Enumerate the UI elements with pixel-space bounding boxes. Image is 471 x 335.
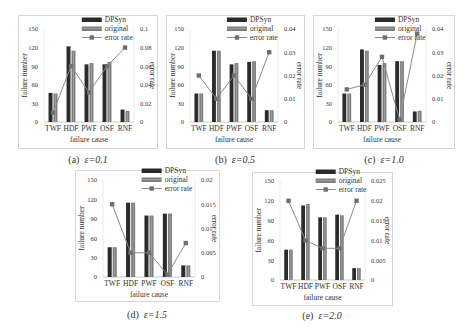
y2-tick-label: 0.025 <box>371 177 386 184</box>
legend-label: DPSyn <box>339 167 361 176</box>
legend-swatch-error-marker <box>324 187 328 191</box>
y-tick-label: 120 <box>264 197 274 204</box>
bar-original-stripe <box>358 269 359 280</box>
legend-swatch-original-stripe <box>316 180 336 181</box>
bar-dpsyn <box>284 250 288 280</box>
y2-tick-label: 0.005 <box>371 257 386 264</box>
legend-label: original <box>339 176 362 185</box>
caption-epsilon: ε=2.0 <box>318 310 341 321</box>
y-tick-label: 30 <box>268 257 275 264</box>
x-tick-label: RNF <box>349 282 364 291</box>
bar-dpsyn <box>352 268 356 280</box>
chart-svg: 030609012015000.0050.010.0150.020.025fai… <box>0 0 471 335</box>
error-rate-marker <box>354 199 358 203</box>
bar-original-stripe <box>290 251 291 280</box>
chart-caption: (e) ε=2.0 <box>292 310 352 321</box>
x-tick-label: HDF <box>298 282 313 291</box>
y2-tick-label: 0.01 <box>371 237 382 244</box>
legend-label: error rate <box>339 185 367 194</box>
x-tick-label: OSF <box>333 282 347 291</box>
y-tick-label: 60 <box>268 237 275 244</box>
y-tick-label: 90 <box>268 217 275 224</box>
error-rate-line <box>289 201 357 249</box>
error-rate-marker <box>303 238 307 242</box>
y-tick-label: 150 <box>264 177 274 184</box>
legend-swatch-dpsyn <box>316 170 336 175</box>
caption-prefix: (e) <box>302 310 313 321</box>
y2-tick-label: 0 <box>371 276 374 283</box>
y-axis-label: failure number <box>254 208 263 253</box>
error-rate-marker <box>337 246 341 250</box>
y2-axis-label: error rate <box>383 217 392 245</box>
bar-dpsyn <box>301 205 305 280</box>
x-axis-label: failure cause <box>303 293 342 302</box>
error-rate-marker <box>320 246 324 250</box>
y2-tick-label: 0.02 <box>371 197 382 204</box>
x-tick-label: PWF <box>315 282 330 291</box>
y-tick-label: 0 <box>271 276 274 283</box>
error-rate-marker <box>286 199 290 203</box>
x-tick-label: TWF <box>281 282 297 291</box>
